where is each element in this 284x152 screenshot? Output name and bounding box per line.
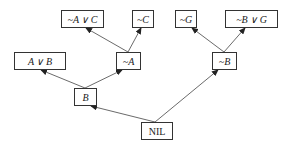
node-NIL: NIL xyxy=(141,122,173,140)
resolution-tree-diagram: ~A ∨ C ~C ~G ~B ∨ G A ∨ B ~A ~B B NIL xyxy=(0,0,284,152)
edge-B-to-notA xyxy=(85,70,122,88)
edge-NIL-to-notB xyxy=(155,70,218,122)
node-notB-or-G: ~B ∨ G xyxy=(225,10,278,28)
edge-notB-to-notBorG xyxy=(224,28,245,52)
edge-notA-to-notAorC xyxy=(86,28,128,52)
node-notG: ~G xyxy=(175,10,197,28)
edge-notB-to-notG xyxy=(192,28,224,52)
edge-notA-to-notC xyxy=(128,28,141,52)
edge-NIL-to-B xyxy=(91,106,155,122)
node-B: B xyxy=(74,88,97,106)
node-notA-or-C: ~A ∨ C xyxy=(61,10,104,28)
node-notB: ~B xyxy=(212,52,237,70)
edge-B-to-AorB xyxy=(41,70,85,88)
node-notA: ~A xyxy=(116,52,141,70)
node-notC: ~C xyxy=(132,10,154,28)
node-A-or-B: A ∨ B xyxy=(14,52,66,70)
